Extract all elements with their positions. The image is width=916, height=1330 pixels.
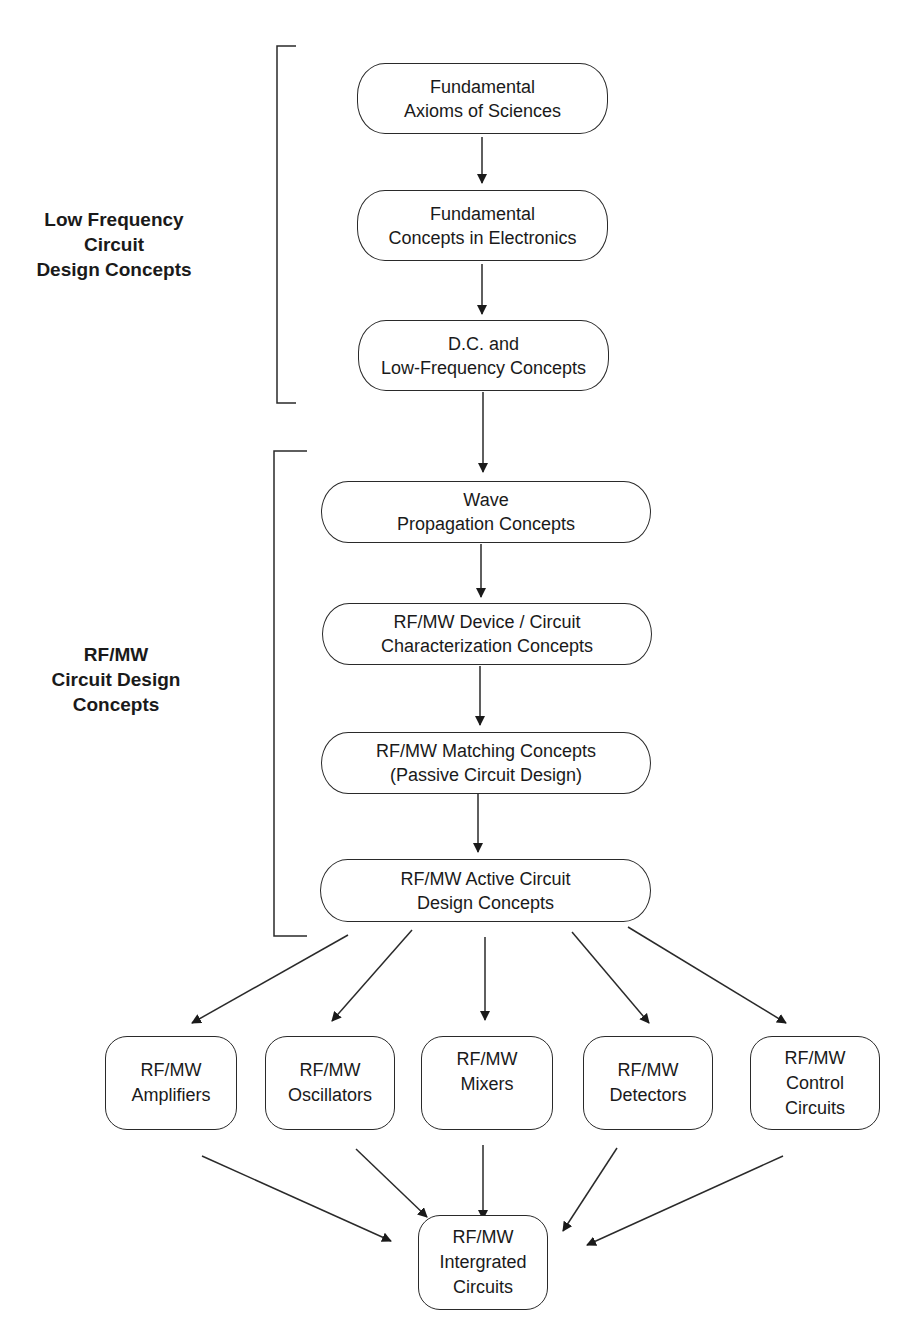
node-wave: Wave Propagation Concepts <box>321 481 651 543</box>
node-text: Circuits <box>453 1275 513 1300</box>
node-text: RF/MW Matching Concepts <box>376 739 596 763</box>
group-label-rfmw: RF/MW Circuit Design Concepts <box>0 642 236 717</box>
arrow-control-integrated <box>587 1156 783 1245</box>
node-text: Propagation Concepts <box>397 512 575 536</box>
node-text: RF/MW Active Circuit <box>400 867 570 891</box>
node-text: Design Concepts <box>417 891 554 915</box>
node-text: Characterization Concepts <box>381 634 593 658</box>
node-text: Low-Frequency Concepts <box>381 356 586 380</box>
group-label-low-frequency: Low Frequency Circuit Design Concepts <box>0 207 234 282</box>
node-active: RF/MW Active Circuit Design Concepts <box>320 859 651 922</box>
node-detectors: RF/MW Detectors <box>583 1036 713 1130</box>
node-text: RF/MW <box>618 1058 679 1083</box>
node-text: RF/MW <box>785 1046 846 1071</box>
node-characterization: RF/MW Device / Circuit Characterization … <box>322 603 652 665</box>
node-dc: D.C. and Low-Frequency Concepts <box>358 320 609 391</box>
bracket-rfmw <box>274 451 307 936</box>
node-axioms: Fundamental Axioms of Sciences <box>357 63 608 134</box>
arrow-active-detectors <box>572 932 649 1023</box>
arrow-active-amplifiers <box>192 935 348 1023</box>
arrow-active-oscillators <box>332 930 412 1021</box>
group-label-line: Low Frequency <box>0 207 234 232</box>
node-text: RF/MW Device / Circuit <box>393 610 580 634</box>
group-label-line: Circuit <box>0 232 234 257</box>
node-text: D.C. and <box>448 332 519 356</box>
node-text: (Passive Circuit Design) <box>390 763 582 787</box>
node-matching: RF/MW Matching Concepts (Passive Circuit… <box>321 732 651 794</box>
node-text: Fundamental <box>430 75 535 99</box>
node-text: RF/MW <box>141 1058 202 1083</box>
arrow-detectors-integrated <box>563 1148 617 1231</box>
node-text: Circuits <box>785 1096 845 1121</box>
group-label-line: Circuit Design <box>0 667 236 692</box>
node-text: Wave <box>463 488 508 512</box>
group-label-line: Design Concepts <box>0 257 234 282</box>
group-label-line: Concepts <box>0 692 236 717</box>
node-text: Intergrated <box>439 1250 526 1275</box>
arrow-oscillators-integrated <box>356 1149 427 1217</box>
node-text: Mixers <box>461 1072 514 1097</box>
node-text: Detectors <box>609 1083 686 1108</box>
node-text: Fundamental <box>430 202 535 226</box>
node-amplifiers: RF/MW Amplifiers <box>105 1036 237 1130</box>
node-text: Control <box>786 1071 844 1096</box>
group-label-line: RF/MW <box>0 642 236 667</box>
node-control: RF/MW Control Circuits <box>750 1036 880 1130</box>
arrow-amplifiers-integrated <box>202 1156 391 1241</box>
node-text: Concepts in Electronics <box>388 226 576 250</box>
bracket-low-frequency <box>277 46 296 403</box>
node-text: Amplifiers <box>131 1083 210 1108</box>
node-text: RF/MW <box>453 1225 514 1250</box>
node-text: Oscillators <box>288 1083 372 1108</box>
node-oscillators: RF/MW Oscillators <box>265 1036 395 1130</box>
node-integrated: RF/MW Intergrated Circuits <box>418 1215 548 1310</box>
arrow-active-control <box>628 927 786 1023</box>
node-electronics: Fundamental Concepts in Electronics <box>357 190 608 261</box>
node-text: Axioms of Sciences <box>404 99 561 123</box>
node-mixers: RF/MW Mixers <box>421 1036 553 1130</box>
node-text: RF/MW <box>300 1058 361 1083</box>
node-text: RF/MW <box>457 1047 518 1072</box>
